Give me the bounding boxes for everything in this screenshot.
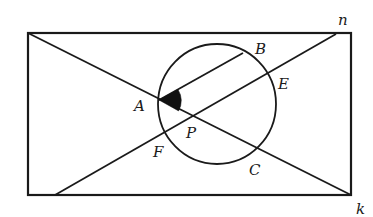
label-p: P bbox=[185, 124, 197, 142]
angle-marker-icon bbox=[159, 89, 181, 111]
label-c: C bbox=[249, 161, 261, 179]
label-a: A bbox=[132, 97, 145, 115]
diagonal-line-ak bbox=[28, 33, 351, 195]
label-e: E bbox=[277, 75, 289, 93]
line-fe bbox=[55, 34, 336, 195]
label-k: k bbox=[356, 200, 365, 217]
label-f: F bbox=[152, 143, 164, 161]
geometry-diagram: n B E A P F C k bbox=[0, 0, 373, 217]
label-n: n bbox=[338, 11, 348, 29]
label-b: B bbox=[254, 40, 266, 58]
